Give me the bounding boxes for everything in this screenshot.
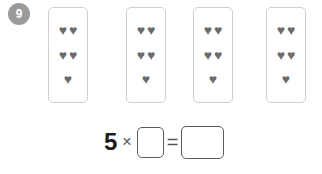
heart-icon: ♥ — [214, 23, 222, 37]
heart-icon: ♥ — [277, 48, 285, 62]
product-answer-box[interactable] — [181, 126, 224, 159]
question-number-badge: 9 — [8, 3, 30, 25]
heart-card: ♥ ♥ ♥ ♥ ♥ — [193, 7, 233, 103]
heart-icon: ♥ — [137, 23, 145, 37]
heart-row: ♥ — [267, 72, 305, 86]
heart-row: ♥ ♥ — [194, 23, 232, 37]
heart-row: ♥ ♥ — [267, 48, 305, 62]
heart-icon: ♥ — [64, 72, 72, 86]
multiplication-sign-icon: × — [122, 134, 131, 150]
exercise-container: 9 ♥ ♥ ♥ ♥ ♥ ♥ ♥ ♥ ♥ ♥ — [0, 0, 322, 174]
heart-row: ♥ ♥ — [267, 23, 305, 37]
multiplier-value: 5 — [104, 130, 117, 154]
heart-cards-group: ♥ ♥ ♥ ♥ ♥ ♥ ♥ ♥ ♥ ♥ — [48, 7, 306, 104]
heart-icon: ♥ — [204, 48, 212, 62]
factor-answer-box[interactable] — [137, 127, 164, 158]
heart-row: ♥ ♥ — [127, 23, 165, 37]
heart-row: ♥ ♥ — [49, 23, 87, 37]
heart-icon: ♥ — [214, 48, 222, 62]
heart-row: ♥ — [194, 72, 232, 86]
heart-icon: ♥ — [147, 48, 155, 62]
heart-card: ♥ ♥ ♥ ♥ ♥ — [266, 7, 306, 103]
heart-icon: ♥ — [137, 48, 145, 62]
heart-row: ♥ ♥ — [127, 48, 165, 62]
heart-icon: ♥ — [69, 48, 77, 62]
heart-icon: ♥ — [209, 72, 217, 86]
heart-icon: ♥ — [69, 23, 77, 37]
heart-icon: ♥ — [277, 23, 285, 37]
heart-row: ♥ — [127, 72, 165, 86]
heart-card: ♥ ♥ ♥ ♥ ♥ — [126, 7, 166, 103]
heart-icon: ♥ — [147, 23, 155, 37]
heart-icon: ♥ — [142, 72, 150, 86]
heart-icon: ♥ — [59, 23, 67, 37]
equals-sign-icon: = — [167, 132, 179, 152]
heart-icon: ♥ — [204, 23, 212, 37]
equation: 5 × = — [104, 122, 224, 162]
heart-row: ♥ ♥ — [49, 48, 87, 62]
heart-row: ♥ — [49, 72, 87, 86]
heart-card: ♥ ♥ ♥ ♥ ♥ — [48, 7, 88, 103]
heart-icon: ♥ — [287, 23, 295, 37]
heart-row: ♥ ♥ — [194, 48, 232, 62]
heart-icon: ♥ — [282, 72, 290, 86]
heart-icon: ♥ — [287, 48, 295, 62]
heart-icon: ♥ — [59, 48, 67, 62]
